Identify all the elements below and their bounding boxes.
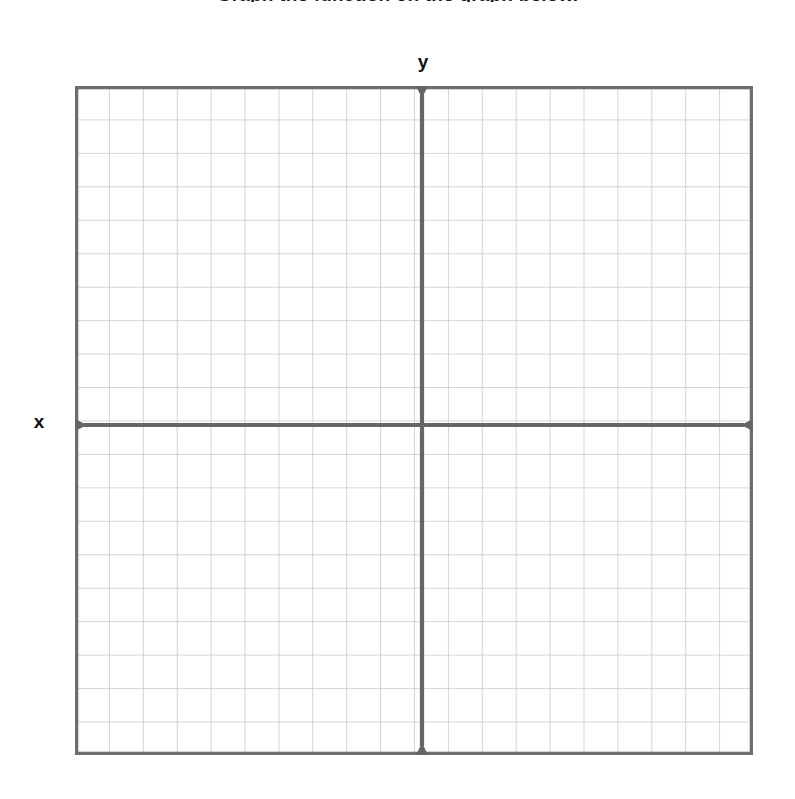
grid-cells	[75, 86, 753, 755]
clipped-title-fragment: Graph the function on the graph below.	[0, 0, 795, 2]
coordinate-grid[interactable]	[75, 86, 753, 755]
y-axis-label: y	[412, 52, 434, 71]
worksheet-page: Graph the function on the graph below. y…	[0, 0, 795, 799]
x-axis-label: x	[28, 412, 50, 431]
coordinate-grid-svg[interactable]	[75, 86, 753, 755]
